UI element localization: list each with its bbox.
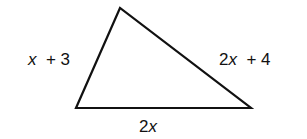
label-right-var: 2x bbox=[219, 50, 237, 69]
label-left-var: x bbox=[28, 50, 37, 69]
label-bottom-side: 2x bbox=[139, 118, 157, 135]
label-left-rest: + 3 bbox=[37, 50, 71, 69]
label-left-side: x + 3 bbox=[28, 51, 70, 68]
label-right-rest: + 4 bbox=[237, 50, 271, 69]
label-right-side: 2x + 4 bbox=[219, 51, 271, 68]
